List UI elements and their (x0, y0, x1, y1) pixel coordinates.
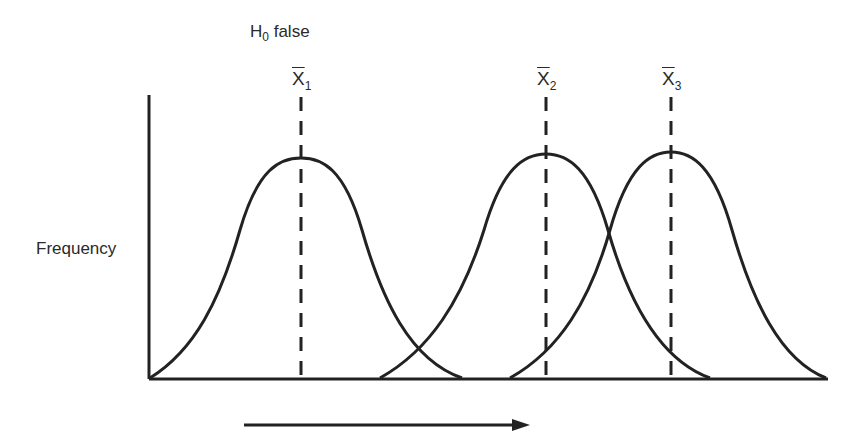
hypothesis-label: H0 false (250, 22, 310, 44)
diagram-canvas (0, 0, 864, 439)
mean-label-1: X1 (292, 68, 311, 93)
y-axis-label: Frequency (36, 239, 116, 259)
direction-arrow-head (512, 419, 530, 431)
mean-label-3: X3 (662, 68, 681, 93)
mean-label-2: X2 (537, 68, 556, 93)
distribution-curve-3 (510, 152, 826, 378)
distribution-curve-1 (150, 158, 462, 378)
